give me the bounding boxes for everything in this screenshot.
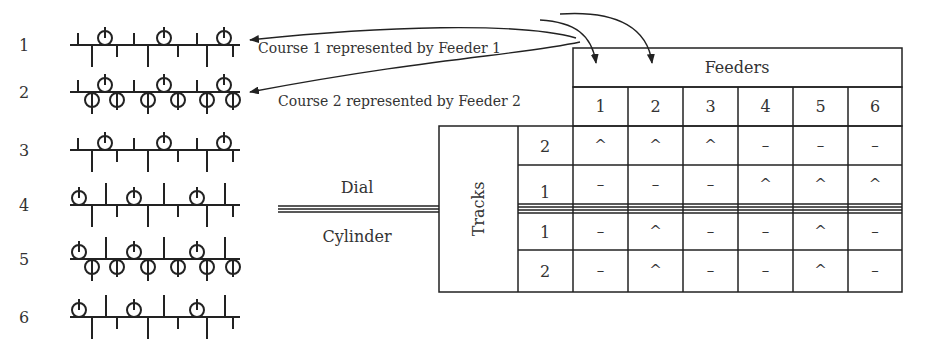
annotation-course-1: Course 1 represented by Feeder 1	[258, 40, 501, 56]
needle-knit-symbol: ^	[814, 222, 827, 240]
needle-miss-symbol: –	[871, 222, 879, 240]
arrow-to-course-1	[250, 28, 576, 40]
needle-miss-symbol: –	[652, 175, 660, 193]
needle-miss-symbol: –	[871, 136, 879, 154]
needle-miss-symbol: –	[707, 222, 715, 240]
needle-miss-symbol: –	[762, 136, 770, 154]
track-rows: 2^^^–––1–––^^^1–^––^–2–^––^–	[540, 136, 881, 282]
needle-knit-symbol: ^	[759, 175, 772, 193]
track-number: 2	[540, 137, 550, 156]
feeders-header: Feeders	[705, 58, 770, 77]
course-number: 2	[19, 83, 29, 102]
needle-miss-symbol: –	[871, 261, 879, 279]
needle-miss-symbol: –	[762, 261, 770, 279]
feeder-number: 3	[705, 97, 715, 116]
needle-miss-symbol: –	[707, 261, 715, 279]
track-row: 2–^––^–	[540, 261, 879, 281]
dial-cylinder-divider	[278, 206, 439, 212]
track-divider	[518, 204, 902, 213]
feeder-number: 5	[815, 97, 825, 116]
arrow-to-feeder-2	[560, 13, 652, 63]
track-row: 1–––^^^	[540, 175, 881, 203]
feeder-number: 1	[595, 97, 605, 116]
needle-miss-symbol: –	[762, 222, 770, 240]
course-row: 6	[19, 295, 240, 339]
needle-knit-symbol: ^	[704, 136, 717, 154]
knitting-notation-diagram: 123456 Course 1 represented by Feeder 1 …	[0, 0, 948, 346]
needle-miss-symbol: –	[597, 175, 605, 193]
needle-knit-symbol: ^	[594, 136, 607, 154]
needle-knit-symbol: ^	[649, 136, 662, 154]
course-row: 5	[19, 237, 240, 281]
needle-knit-symbol: ^	[649, 261, 662, 279]
needle-miss-symbol: –	[597, 222, 605, 240]
course-number: 3	[19, 141, 29, 160]
needle-miss-symbol: –	[817, 136, 825, 154]
needle-miss-symbol: –	[707, 175, 715, 193]
course-row: 1	[19, 27, 240, 67]
needle-knit-symbol: ^	[814, 261, 827, 279]
track-number: 1	[540, 223, 550, 242]
annotation-course-2: Course 2 represented by Feeder 2	[278, 93, 521, 109]
arrow-to-feeder-1	[540, 20, 596, 63]
course-number: 5	[19, 250, 29, 269]
course-row: 3	[19, 132, 240, 172]
needle-knit-symbol: ^	[869, 175, 882, 193]
dial-label: Dial	[341, 178, 374, 197]
course-notation-group: 123456	[19, 27, 240, 339]
cylinder-label: Cylinder	[322, 227, 392, 246]
track-row: 2^^^–––	[540, 136, 879, 156]
feeder-number: 2	[650, 97, 660, 116]
feeder-number: 6	[870, 97, 880, 116]
feeder-number: 4	[760, 97, 770, 116]
needle-knit-symbol: ^	[814, 175, 827, 193]
course-number: 6	[19, 308, 29, 327]
course-number: 4	[19, 196, 29, 215]
tracks-label: Tracks	[469, 182, 488, 237]
course-row: 2	[19, 74, 240, 114]
track-number: 1	[540, 183, 550, 202]
needle-miss-symbol: –	[597, 261, 605, 279]
course-row: 4	[19, 183, 240, 227]
track-row: 1–^––^–	[540, 222, 879, 242]
feeders-table	[439, 48, 902, 292]
needle-knit-symbol: ^	[649, 222, 662, 240]
course-number: 1	[19, 36, 29, 55]
track-number: 2	[540, 262, 550, 281]
